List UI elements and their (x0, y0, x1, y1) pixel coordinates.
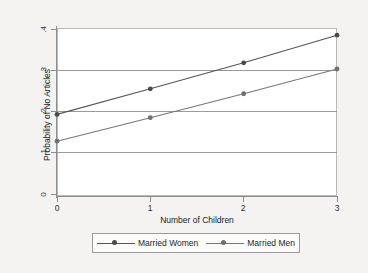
x-axis-title: Number of Children (57, 215, 337, 225)
legend-dot (112, 240, 117, 245)
legend-entry-married-men[interactable]: Married Men (206, 238, 295, 248)
legend-dot (221, 240, 226, 245)
gridline-0.2 (57, 111, 337, 112)
x-tick-mark-0 (57, 197, 58, 202)
chart-figure: .4 .3 .2 .1 0 0 1 2 3 Probability of No … (0, 0, 368, 273)
gridline-0.1 (57, 152, 337, 153)
plot-area (57, 28, 337, 196)
legend-label-married-women: Married Women (138, 238, 198, 248)
y-axis-line (56, 26, 57, 198)
x-tick-mark-3 (337, 197, 338, 202)
legend-marker-icon-married-men (206, 239, 244, 248)
x-tick-label-2: 2 (236, 203, 250, 213)
x-tick-mark-1 (150, 197, 151, 202)
x-tick-label-1: 1 (143, 203, 157, 213)
legend-marker-icon-married-women (97, 239, 135, 248)
legend-entry-married-women[interactable]: Married Women (97, 238, 198, 248)
legend-label-married-men: Married Men (247, 238, 295, 248)
y-axis-title: Probability of No Articles (42, 30, 52, 200)
chart-legend: Married Women Married Men (92, 233, 300, 253)
x-tick-label-3: 3 (330, 203, 344, 213)
x-tick-mark-2 (243, 197, 244, 202)
x-tick-label-0: 0 (50, 203, 64, 213)
gridline-0.3 (57, 70, 337, 71)
x-axis-line (56, 196, 338, 197)
